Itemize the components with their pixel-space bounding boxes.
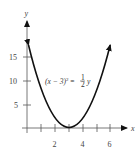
y-tick-label-10: 10 (9, 77, 17, 86)
parabola-chart: x y 2 4 6 5 10 15 (x − 3)2 = 1 2 y (0, 0, 139, 161)
x-axis-label: x (130, 124, 135, 133)
parabola-curve (29, 45, 111, 128)
svg-text:y: y (86, 77, 91, 86)
x-tick-label-2: 2 (53, 140, 57, 149)
y-axis-label: y (24, 9, 29, 18)
x-tick-label-6: 6 (108, 140, 112, 149)
svg-text:(x − 3)2 =: (x − 3)2 = (45, 77, 75, 86)
y-tick-label-15: 15 (9, 53, 17, 62)
svg-text:2: 2 (81, 80, 85, 89)
x-tick-label-4: 4 (81, 140, 85, 149)
equation-annotation: (x − 3)2 = 1 2 y (45, 73, 91, 89)
y-tick-label-5: 5 (14, 101, 18, 110)
